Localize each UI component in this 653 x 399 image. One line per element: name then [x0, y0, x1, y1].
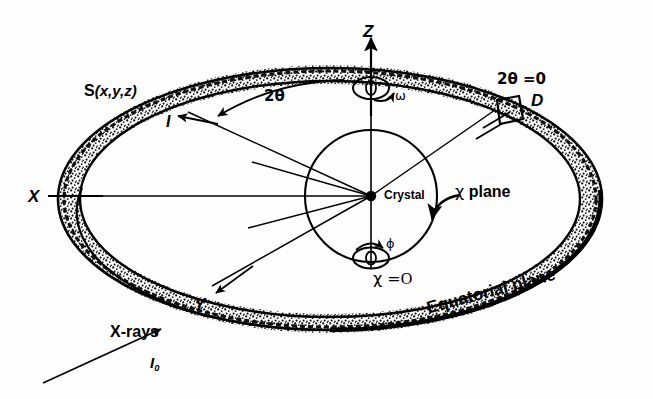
diffracted-beam-label: I — [166, 114, 170, 130]
omega-label: ω — [395, 89, 406, 102]
y-axis-label: Y — [194, 296, 205, 313]
diagram-canvas: S(x,y,z) I 2θ 2θ =0 ω ϕ χ =O χ plane D C… — [0, 0, 653, 399]
ray-y-axis — [212, 196, 371, 286]
chi-plane-symbol: χ — [455, 182, 464, 201]
detector-tick-upper — [483, 112, 510, 128]
phi-label: ϕ — [386, 237, 395, 250]
detector-tick-lower — [476, 123, 503, 139]
scattering-vector-coords: (x,y,z) — [95, 82, 137, 99]
diffractometer-diagram — [0, 0, 653, 399]
ray-left-lower — [248, 196, 371, 228]
chi-plane-label: χ plane — [455, 184, 511, 200]
z-axis-label: Z — [363, 23, 373, 40]
y-axis-arrow — [216, 266, 253, 293]
chi-zero-label: χ =O — [373, 271, 412, 287]
crystal-rays — [72, 110, 495, 286]
chi-zero-symbol: χ = — [373, 269, 401, 288]
chi-plane-word: plane — [469, 183, 511, 200]
x-axis-label: X — [28, 188, 39, 205]
incident-beam-subscript: 0 — [154, 363, 159, 373]
two-theta-label: 2θ — [264, 89, 285, 104]
crystal-label: Crystal — [384, 189, 425, 201]
incident-beam-label: I0 — [150, 355, 159, 370]
crystal-dot — [366, 191, 376, 201]
two-theta-zero-label: 2θ =0 — [497, 72, 546, 87]
scattering-vector-label: S(x,y,z) — [84, 83, 137, 99]
omega-curved-arrow — [374, 93, 394, 101]
ray-diffracted-upper-left — [188, 112, 371, 196]
xrays-label: X-rays — [110, 324, 159, 340]
detector-label: D — [531, 92, 543, 109]
chi-zero-value: O — [401, 270, 413, 287]
scattering-vector-symbol: S — [84, 82, 95, 99]
